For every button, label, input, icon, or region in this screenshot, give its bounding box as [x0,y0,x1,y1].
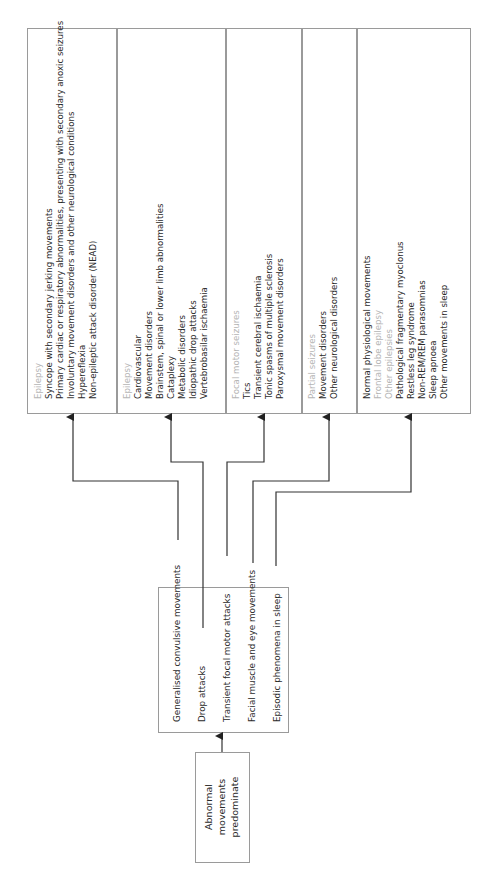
connector-lines [0,0,491,887]
